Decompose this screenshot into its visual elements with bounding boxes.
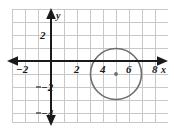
y-tick-label-2: 2 <box>40 30 46 41</box>
x-axis <box>7 56 168 66</box>
x-tick-label--2: −2 <box>16 64 28 75</box>
y-tick-label--4: −4 <box>41 108 53 119</box>
x-tick-label-6: 6 <box>126 64 132 75</box>
x-tick-label-8: 8 <box>152 64 158 75</box>
y-tick-label--2: −2 <box>41 82 53 93</box>
x-tick-label-4: 4 <box>100 64 106 75</box>
grid-vertical-lines <box>13 10 156 123</box>
x-tick-label-2: 2 <box>74 64 80 75</box>
coordinate-plane-figure: −2 2 4 6 8 2 −2 −4 y x <box>0 0 174 131</box>
grid-horizontal-lines <box>12 10 168 123</box>
x-axis-name: x <box>161 65 166 75</box>
circle-center-point <box>114 72 118 76</box>
y-axis-name: y <box>56 11 60 21</box>
